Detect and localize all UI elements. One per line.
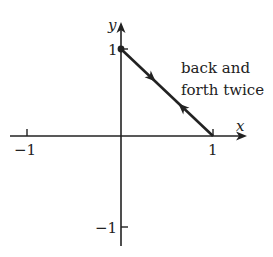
curve-diagram: x y −1 1 1 −1 back and forth twice <box>0 0 273 257</box>
start-point-dot-icon <box>118 46 125 53</box>
x-axis-label: x <box>236 117 245 135</box>
y-axis-label: y <box>107 16 117 34</box>
y-tick-label-neg1: −1 <box>95 219 117 237</box>
x-tick-label-neg1: −1 <box>14 141 36 159</box>
annotation-line-1: back and <box>181 59 250 77</box>
annotation-line-2: forth twice <box>181 81 264 99</box>
y-tick-label-1: 1 <box>108 41 118 59</box>
x-tick-label-1: 1 <box>208 141 218 159</box>
annotation: back and forth twice <box>181 59 264 99</box>
